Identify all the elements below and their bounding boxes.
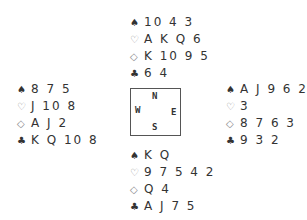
- east-spades: ♠A J 9 6 2: [226, 81, 307, 98]
- west-hand: ♠8 7 5 ♡J 10 8 ◇A J 2 ♣K Q 10 8: [17, 81, 99, 149]
- spade-icon: ♠: [130, 14, 144, 31]
- east-clubs: ♣9 3 2: [226, 132, 307, 149]
- spade-icon: ♠: [226, 81, 240, 98]
- east-hearts: ♡3: [226, 98, 307, 115]
- compass-west-label: W: [135, 105, 140, 115]
- south-hearts: ♡9 7 5 4 2: [130, 164, 215, 181]
- club-icon: ♣: [130, 65, 144, 82]
- compass-east-label: E: [171, 107, 176, 117]
- heart-icon: ♡: [130, 164, 144, 181]
- south-hand: ♠K Q ♡9 7 5 4 2 ◇Q 4 ♣A J 7 5: [130, 147, 215, 215]
- compass-south-label: S: [152, 122, 157, 132]
- west-diamonds: ◇A J 2: [17, 115, 99, 132]
- south-clubs: ♣A J 7 5: [130, 198, 215, 215]
- diamond-icon: ◇: [226, 115, 240, 132]
- east-hand: ♠A J 9 6 2 ♡3 ◇8 7 6 3 ♣9 3 2: [226, 81, 307, 149]
- north-hearts: ♡A K Q 6: [130, 31, 210, 48]
- east-diamonds: ◇8 7 6 3: [226, 115, 307, 132]
- club-icon: ♣: [226, 132, 240, 149]
- compass-box: N W E S: [130, 88, 181, 136]
- diamond-icon: ◇: [130, 48, 144, 65]
- south-spades: ♠K Q: [130, 147, 215, 164]
- north-spades: ♠10 4 3: [130, 14, 210, 31]
- north-clubs: ♣6 4: [130, 65, 210, 82]
- west-clubs: ♣K Q 10 8: [17, 132, 99, 149]
- diamond-icon: ◇: [130, 181, 144, 198]
- heart-icon: ♡: [17, 98, 31, 115]
- north-hand: ♠10 4 3 ♡A K Q 6 ◇K 10 9 5 ♣6 4: [130, 14, 210, 82]
- diamond-icon: ◇: [17, 115, 31, 132]
- north-diamonds: ◇K 10 9 5: [130, 48, 210, 65]
- spade-icon: ♠: [17, 81, 31, 98]
- west-hearts: ♡J 10 8: [17, 98, 99, 115]
- west-spades: ♠8 7 5: [17, 81, 99, 98]
- club-icon: ♣: [17, 132, 31, 149]
- spade-icon: ♠: [130, 147, 144, 164]
- compass-north-label: N: [152, 91, 157, 101]
- club-icon: ♣: [130, 198, 144, 215]
- south-diamonds: ◇Q 4: [130, 181, 215, 198]
- heart-icon: ♡: [130, 31, 144, 48]
- heart-icon: ♡: [226, 98, 240, 115]
